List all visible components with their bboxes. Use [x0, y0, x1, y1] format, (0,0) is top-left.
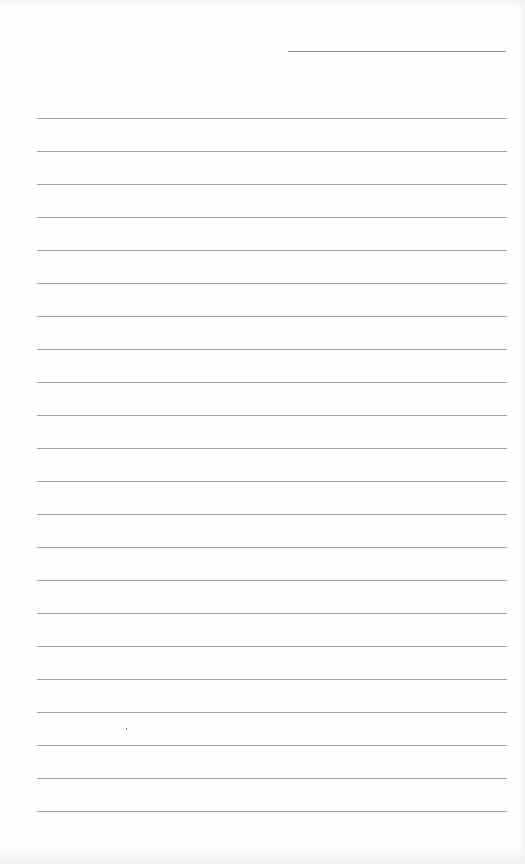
top-edge-shadow [0, 0, 525, 8]
ruled-line [37, 151, 507, 152]
ruled-line [37, 712, 507, 713]
ruled-line [37, 448, 507, 449]
ruled-line [37, 547, 507, 548]
ruled-line [37, 580, 507, 581]
bottom-edge-shadow [0, 846, 525, 864]
ruled-line [37, 217, 507, 218]
ruled-line [37, 778, 507, 779]
ruled-line [37, 118, 507, 119]
ruled-line [37, 349, 507, 350]
ruled-line [37, 811, 507, 812]
date-line [288, 51, 506, 52]
ruled-line [37, 415, 507, 416]
ruled-line [37, 283, 507, 284]
ruled-line [37, 514, 507, 515]
ruled-line [37, 481, 507, 482]
ruled-line [37, 250, 507, 251]
lined-paper-page [0, 0, 525, 864]
ruled-line [37, 679, 507, 680]
ruled-line [37, 382, 507, 383]
right-edge-shadow [517, 0, 525, 864]
ruled-line [37, 613, 507, 614]
paper-speck [126, 728, 127, 730]
ruled-line [37, 745, 507, 746]
ruled-line [37, 646, 507, 647]
ruled-line [37, 316, 507, 317]
ruled-line [37, 184, 507, 185]
